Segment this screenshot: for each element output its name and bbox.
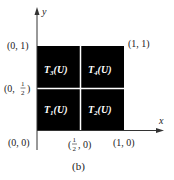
y-axis-arrow-icon [35, 7, 40, 15]
y-axis-label: y [41, 6, 47, 17]
figure-caption: (b) [72, 160, 85, 173]
label-half-0: ( 1 2 , 0) [68, 136, 91, 153]
label-0-half: (0, 1 2 ) [4, 80, 30, 97]
svg-text:2: 2 [21, 89, 25, 97]
x-axis-arrow-icon [156, 128, 164, 133]
svg-text:, 0): , 0) [78, 139, 91, 151]
label-0-0: (0, 0) [8, 137, 30, 149]
label-1-0: (1, 0) [113, 137, 135, 149]
label-0-1: (0, 1) [7, 40, 29, 52]
svg-text:1: 1 [21, 80, 25, 88]
svg-text:(: ( [68, 139, 72, 151]
svg-text:2: 2 [73, 145, 77, 153]
svg-text:): ) [27, 83, 30, 95]
x-axis-label: x [158, 115, 164, 126]
unit-square-diagram: y x (0, 1) (1, 1) (0, 1 2 ) (0, 0) ( 1 2… [0, 0, 174, 180]
svg-text:(0,: (0, [4, 83, 15, 95]
label-1-1: (1, 1) [128, 38, 150, 50]
svg-text:1: 1 [73, 136, 77, 144]
